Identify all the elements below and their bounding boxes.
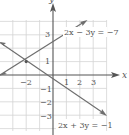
svg-text:3: 3	[45, 30, 50, 39]
equation-label-2: 2x + 3y = −1	[58, 121, 113, 130]
line1-arrow-icon	[80, 20, 88, 26]
svg-text:1: 1	[64, 78, 69, 87]
svg-text:2: 2	[77, 78, 82, 87]
intersection-point	[25, 60, 28, 63]
y-axis-label: y	[48, 0, 55, 4]
svg-text:−2: −2	[20, 78, 32, 87]
x-axis-label: x	[122, 70, 127, 80]
coordinate-plane: x y −2 1 2 3 3 1 −1 −2 −3 2x − 3y = −7 2…	[0, 0, 129, 135]
svg-text:3: 3	[91, 78, 96, 87]
svg-text:−2: −2	[40, 98, 52, 107]
svg-text:1: 1	[45, 57, 50, 66]
equation-label-1: 2x − 3y = −7	[64, 28, 119, 37]
svg-text:−3: −3	[40, 112, 52, 121]
svg-text:−1: −1	[40, 85, 52, 94]
